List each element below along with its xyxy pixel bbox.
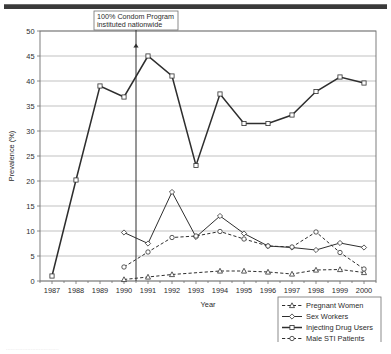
- x-tick-label-2000: 2000: [356, 286, 372, 295]
- x-axis: [40, 281, 376, 284]
- datapoint-3-1: [146, 250, 150, 254]
- datapoint-1-2: [169, 189, 174, 194]
- datapoint-0-4: [242, 268, 247, 273]
- x-tick-label-1988: 1988: [68, 286, 84, 295]
- series-injecting-drug-users: [50, 54, 366, 278]
- caption-fragment: ................................: [6, 346, 386, 352]
- y-tick-label-40: 40: [26, 77, 34, 86]
- prevalence-line-chart: 0510152025303540455019871988198919901991…: [0, 0, 391, 342]
- datapoint-2-13: [362, 81, 366, 85]
- datapoint-2-9: [266, 121, 270, 125]
- datapoint-3-6: [266, 244, 270, 248]
- datapoint-2-5: [170, 74, 174, 78]
- datapoint-0-8: [338, 267, 343, 272]
- gridlines: [37, 31, 376, 281]
- y-tick-label-15: 15: [26, 202, 34, 211]
- series-pregnant-women: [122, 267, 367, 282]
- x-tick-label-1997: 1997: [284, 286, 300, 295]
- y-tick-label-10: 10: [26, 227, 34, 236]
- legend-label-1: Sex Workers: [306, 312, 348, 321]
- legend-label-0: Pregnant Women: [306, 301, 363, 310]
- x-tick-label-1989: 1989: [92, 286, 108, 295]
- datapoint-2-7: [218, 92, 222, 96]
- datapoint-2-4: [146, 54, 150, 58]
- y-tick-label-45: 45: [26, 52, 34, 61]
- datapoint-3-10: [362, 267, 366, 271]
- x-tick-label-1999: 1999: [332, 286, 348, 295]
- x-tick-label-1987: 1987: [44, 286, 60, 295]
- y-tick-label-50: 50: [26, 27, 34, 36]
- legend-label-2: Injecting Drug Users: [306, 323, 373, 332]
- datapoint-3-9: [338, 250, 342, 254]
- legend-marker-3: [290, 336, 294, 340]
- datapoint-3-5: [242, 237, 246, 241]
- datapoint-2-3: [122, 95, 126, 99]
- datapoint-2-10: [290, 113, 294, 117]
- datapoint-3-0: [122, 265, 126, 269]
- figure-container: 0510152025303540455019871988198919901991…: [0, 0, 391, 354]
- y-tick-label-20: 20: [26, 177, 34, 186]
- datapoint-3-7: [290, 245, 294, 249]
- datapoint-1-1: [145, 241, 150, 246]
- x-tick-label-1990: 1990: [116, 286, 132, 295]
- x-tick-label-1998: 1998: [308, 286, 324, 295]
- legend-marker-2: [290, 325, 294, 329]
- chart-legend: Pregnant WomenSex WorkersInjecting Drug …: [278, 297, 381, 342]
- y-axis-title: Prevalence (%): [7, 131, 16, 182]
- datapoint-2-11: [314, 89, 318, 93]
- datapoint-3-2: [170, 235, 174, 239]
- datapoint-1-8: [313, 247, 318, 252]
- y-tick-label-25: 25: [26, 152, 34, 161]
- series-sex-workers: [121, 189, 366, 252]
- datapoint-3-3: [194, 234, 198, 238]
- y-tick-label-5: 5: [30, 252, 34, 261]
- x-tick-label-1993: 1993: [188, 286, 204, 295]
- x-tick-label-1996: 1996: [260, 286, 276, 295]
- datapoint-3-4: [218, 229, 222, 233]
- x-tick-label-1995: 1995: [236, 286, 252, 295]
- datapoint-3-8: [314, 230, 318, 234]
- datapoint-2-0: [50, 274, 54, 278]
- datapoint-2-8: [242, 121, 246, 125]
- datapoint-2-12: [338, 75, 342, 79]
- x-tick-label-1992: 1992: [164, 286, 180, 295]
- annotation-line-2: instituted nationwide: [97, 20, 162, 29]
- y-tick-label-0: 0: [30, 277, 34, 286]
- datapoint-2-6: [194, 163, 198, 167]
- datapoint-1-10: [361, 245, 366, 250]
- legend-label-3: Male STI Patients: [306, 334, 365, 342]
- x-tick-label-1991: 1991: [140, 286, 156, 295]
- annotation-condom-program: 100% Condom Programinstituted nationwide: [94, 11, 178, 281]
- datapoint-2-1: [74, 178, 78, 182]
- x-tick-label-1994: 1994: [212, 286, 228, 295]
- datapoint-1-9: [337, 240, 342, 245]
- y-tick-label-35: 35: [26, 102, 34, 111]
- y-tick-label-30: 30: [26, 127, 34, 136]
- top-horizontal-rule: [4, 4, 387, 9]
- annotation-arrowhead: [133, 44, 138, 48]
- datapoint-2-2: [98, 84, 102, 88]
- x-axis-title: Year: [201, 300, 216, 309]
